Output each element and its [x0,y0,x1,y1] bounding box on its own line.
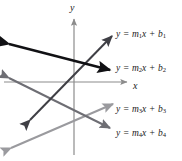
eq3-m: m [132,104,139,114]
eq1-b-subscript: 1 [163,32,166,39]
eq1-x: x [142,29,146,39]
eq1-plus: + [149,29,154,39]
eq4-m: m [132,128,139,138]
x-axis-label: x [133,81,137,91]
eq3-b-subscript: 3 [163,107,166,114]
eq2-y: y [116,63,120,73]
eq4-b-subscript: 4 [163,131,166,138]
eq4-x: x [142,128,146,138]
eq4-y: y [116,128,120,138]
line-m4x-b4 [9,78,110,128]
line-m3x-b3 [11,104,113,148]
eq4-equals: = [123,128,128,138]
y-axis-label: y [70,3,74,13]
eq1-m: m [132,29,139,39]
eq3-plus: + [149,104,154,114]
eq2-equals: = [123,63,128,73]
eq2-m: m [132,63,139,73]
line-m1x-b1 [30,36,112,120]
eq1-equals: = [123,29,128,39]
eq1-y: y [116,29,120,39]
line-label-m3x-b3: y = m3x + b3 [116,105,166,115]
eq2-b-subscript: 2 [163,66,166,73]
line-label-m2x-b2: y = m2x + b2 [116,64,166,74]
eq3-x: x [142,104,146,114]
line-diagram-figure: y x y = m1x + b1 y = m2x + b2 y = m3x + … [0,0,182,161]
eq2-plus: + [149,63,154,73]
line-label-m4x-b4: y = m4x + b4 [116,129,166,139]
eq4-plus: + [149,128,154,138]
eq3-equals: = [123,104,128,114]
line-m2x-b2 [9,44,110,70]
line-label-m1x-b1: y = m1x + b1 [116,30,166,40]
eq2-x: x [142,63,146,73]
eq3-y: y [116,104,120,114]
